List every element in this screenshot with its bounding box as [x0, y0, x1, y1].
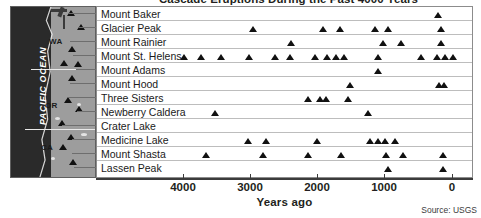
eruption-marker: [379, 40, 387, 46]
leader-line: [70, 83, 96, 84]
x-axis-tick-label: 0: [449, 181, 455, 193]
row-label: Medicine Lake: [101, 134, 169, 146]
leader-line: [67, 97, 96, 98]
map-volcano-icon: [69, 159, 77, 165]
table-row[interactable]: Mount Baker: [97, 7, 472, 21]
ocean-label: PACIFIC OCEAN: [38, 38, 48, 134]
state-label-wa: WA: [49, 37, 63, 46]
chart-root: Cascade Eruptions During the Past 4000 Y…: [0, 0, 481, 218]
eruption-marker: [449, 54, 457, 60]
eruption-marker: [249, 26, 257, 32]
row-label: Mount Adams: [101, 64, 165, 76]
eruption-marker: [259, 152, 267, 158]
eruption-marker: [313, 138, 321, 144]
table-row[interactable]: Mount St. Helens: [97, 49, 472, 63]
eruption-marker: [437, 40, 445, 46]
row-label: Glacier Peak: [101, 22, 161, 34]
map-volcano-icon: [60, 60, 68, 66]
eruption-marker: [262, 138, 270, 144]
eruption-marker: [439, 166, 447, 172]
eruption-marker: [417, 54, 425, 60]
table-row[interactable]: Medicine Lake: [97, 133, 472, 147]
leader-line: [62, 125, 96, 126]
eruption-marker: [323, 54, 331, 60]
table-row[interactable]: Lassen Peak: [97, 161, 472, 175]
row-label: Mount Hood: [101, 78, 158, 90]
leader-line: [69, 13, 96, 14]
eruption-marker: [271, 54, 279, 60]
x-axis-tick-label: 2000: [304, 181, 330, 193]
eruption-marker: [202, 152, 210, 158]
row-label: Mount Rainier: [101, 36, 166, 48]
table-row[interactable]: Crater Lake: [97, 119, 472, 133]
x-axis-tick: [384, 174, 385, 180]
map-volcano-icon: [74, 61, 82, 67]
eruption-marker: [337, 152, 345, 158]
eruption-marker: [340, 54, 348, 60]
eruption-marker: [332, 54, 340, 60]
map-lake-3: [51, 157, 55, 160]
row-label: Lassen Peak: [101, 162, 162, 174]
eruption-marker: [245, 54, 253, 60]
row-label: Newberry Caldera: [101, 106, 186, 118]
state-label-or: OR: [45, 101, 58, 110]
table-row[interactable]: Three Sisters: [97, 91, 472, 105]
map-volcano-icon: [68, 75, 76, 81]
table-row[interactable]: Newberry Caldera: [97, 105, 472, 119]
eruption-marker: [211, 110, 219, 116]
eruption-marker: [197, 54, 205, 60]
eruption-marker: [180, 54, 188, 60]
row-label: Mount Shasta: [101, 148, 166, 160]
eruption-marker: [287, 40, 295, 46]
eruption-marker: [434, 12, 442, 18]
eruption-marker: [366, 138, 374, 144]
eruption-marker: [374, 68, 382, 74]
eruption-marker: [384, 166, 392, 172]
eruption-marker: [304, 152, 312, 158]
x-axis-line: [96, 178, 473, 180]
x-axis-tick-label: 4000: [170, 181, 196, 193]
leader-line: [79, 27, 96, 28]
eruption-marker: [440, 82, 448, 88]
table-row[interactable]: Mount Adams: [97, 63, 472, 77]
x-axis-tick: [452, 174, 453, 180]
map-volcano-icon: [59, 144, 67, 150]
eruption-marker: [322, 96, 330, 102]
plot-area: Mount Baker Glacier Peak Mount Rainier M…: [96, 6, 473, 178]
leader-line: [77, 111, 96, 112]
state-label-ca: CA: [41, 143, 53, 152]
leader-line: [74, 167, 96, 168]
table-row[interactable]: Mount Shasta: [97, 147, 472, 161]
eruption-marker: [437, 26, 445, 32]
eruption-marker: [319, 26, 327, 32]
eruption-marker: [311, 54, 319, 60]
x-axis-tick: [183, 174, 184, 180]
map-lake-4: [81, 133, 87, 136]
leader-line: [72, 139, 96, 140]
eruption-marker: [384, 26, 392, 32]
leader-line: [76, 69, 96, 70]
map-volcano-icon: [68, 46, 76, 52]
eruption-marker: [371, 26, 379, 32]
eruption-marker: [344, 96, 352, 102]
x-axis-title: Years ago: [96, 196, 473, 208]
table-row[interactable]: Glacier Peak: [97, 21, 472, 35]
eruption-marker: [439, 152, 447, 158]
eruption-marker: [391, 138, 399, 144]
row-label: Mount St. Helens: [101, 50, 182, 62]
eruption-marker: [217, 54, 225, 60]
eruption-marker: [374, 54, 382, 60]
table-row[interactable]: Mount Hood: [97, 77, 472, 91]
eruption-marker: [336, 26, 344, 32]
leader-line: [70, 41, 96, 42]
inlet-channel: [63, 15, 65, 29]
row-label: Three Sisters: [101, 92, 163, 104]
leader-line: [72, 153, 96, 154]
eruption-marker: [381, 138, 389, 144]
eruption-marker: [244, 138, 252, 144]
table-row[interactable]: Mount Rainier: [97, 35, 472, 49]
row-label: Mount Baker: [101, 8, 161, 20]
eruption-marker: [304, 96, 312, 102]
x-axis-tick-label: 3000: [237, 181, 263, 193]
x-axis-tick-label: 1000: [371, 181, 397, 193]
